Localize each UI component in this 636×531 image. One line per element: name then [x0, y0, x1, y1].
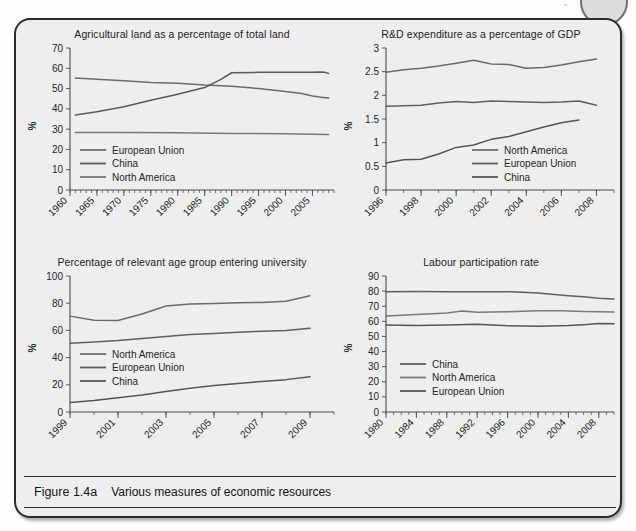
svg-text:2000: 2000 [261, 194, 285, 218]
svg-text:0: 0 [57, 185, 63, 196]
svg-text:%: % [343, 121, 354, 130]
svg-text:1980: 1980 [154, 194, 178, 218]
svg-text:80: 80 [368, 286, 380, 297]
svg-text:1996: 1996 [484, 416, 508, 440]
svg-text:1: 1 [373, 137, 379, 148]
svg-text:1975: 1975 [127, 194, 151, 218]
svg-text:40: 40 [368, 346, 380, 357]
svg-text:40: 40 [52, 103, 64, 114]
svg-text:50: 50 [368, 331, 380, 342]
svg-text:1965: 1965 [73, 194, 97, 218]
svg-text:2001: 2001 [94, 416, 118, 440]
chart-agricultural-land: Agricultural land as a percentage of tot… [22, 26, 342, 254]
svg-text:20: 20 [52, 379, 64, 390]
svg-text:%: % [343, 343, 354, 352]
svg-text:European Union: European Union [112, 362, 184, 373]
charts-grid: Agricultural land as a percentage of tot… [16, 20, 620, 472]
chart-title-university-entry: Percentage of relevant age group enterin… [22, 254, 342, 268]
svg-text:2004: 2004 [544, 416, 568, 440]
svg-text:20: 20 [368, 376, 380, 387]
svg-text:1985: 1985 [181, 194, 205, 218]
svg-text:2006: 2006 [537, 194, 561, 218]
chart-plot-labour-participation: 0102030405060708090%19801984198819921996… [342, 268, 620, 468]
svg-text:2000: 2000 [514, 416, 538, 440]
chart-rd-expenditure: R&D expenditure as a percentage of GDP 0… [342, 26, 620, 254]
svg-text:1970: 1970 [100, 194, 124, 218]
chart-university-entry: Percentage of relevant age group enterin… [22, 254, 342, 472]
svg-text:1996: 1996 [362, 194, 386, 218]
figure-number-label: Figure 1.4a [34, 485, 97, 499]
svg-text:1999: 1999 [46, 416, 70, 440]
svg-text:1960: 1960 [46, 194, 70, 218]
svg-text:1980: 1980 [362, 416, 386, 440]
svg-text:60: 60 [52, 63, 64, 74]
svg-text:90: 90 [368, 271, 380, 282]
chart-canvas-agricultural-land: 010203040506070%196019651970197519801985… [22, 40, 342, 248]
svg-text:1992: 1992 [453, 416, 477, 440]
svg-text:60: 60 [368, 316, 380, 327]
svg-text:2008: 2008 [575, 416, 599, 440]
svg-text:2005: 2005 [190, 416, 214, 440]
svg-text:0: 0 [57, 407, 63, 418]
figure-page: '' Agricultural land as a percentage of … [0, 0, 636, 531]
chart-canvas-university-entry: 020406080100%199920012003200520072009Nor… [22, 268, 342, 468]
svg-text:2004: 2004 [502, 194, 526, 218]
svg-text:1995: 1995 [234, 194, 258, 218]
svg-text:80: 80 [52, 298, 64, 309]
svg-text:North America: North America [112, 349, 176, 360]
chart-title-rd-expenditure: R&D expenditure as a percentage of GDP [342, 26, 620, 40]
svg-text:2003: 2003 [142, 416, 166, 440]
svg-text:2.5: 2.5 [365, 66, 379, 77]
svg-text:2008: 2008 [572, 194, 596, 218]
svg-text:%: % [27, 121, 38, 130]
svg-text:2: 2 [373, 90, 379, 101]
svg-text:10: 10 [368, 391, 380, 402]
svg-text:70: 70 [368, 301, 380, 312]
chart-title-labour-participation: Labour participation rate [342, 254, 620, 268]
svg-text:0: 0 [373, 407, 379, 418]
chart-plot-rd-expenditure: 00.511.522.53%19961998200020022004200620… [342, 40, 620, 248]
chart-plot-agricultural-land: 010203040506070%196019651970197519801985… [22, 40, 342, 248]
svg-text:2000: 2000 [432, 194, 456, 218]
svg-text:100: 100 [46, 271, 63, 282]
svg-text:European Union: European Union [432, 386, 504, 397]
svg-text:China: China [112, 158, 139, 169]
svg-text:2005: 2005 [288, 194, 312, 218]
svg-text:North America: North America [432, 372, 496, 383]
svg-text:1990: 1990 [208, 194, 232, 218]
svg-text:2002: 2002 [467, 194, 491, 218]
svg-text:North America: North America [112, 172, 176, 183]
page-corner-mark: '' [564, 2, 574, 12]
svg-text:European Union: European Union [504, 158, 576, 169]
svg-text:30: 30 [52, 124, 64, 135]
svg-text:1984: 1984 [392, 416, 416, 440]
figure-caption-bar: Figure 1.4a Various measures of economic… [24, 476, 616, 508]
svg-text:China: China [432, 359, 459, 370]
chart-labour-participation: Labour participation rate 01020304050607… [342, 254, 620, 472]
svg-text:30: 30 [368, 361, 380, 372]
svg-text:70: 70 [52, 43, 64, 54]
svg-text:0.5: 0.5 [365, 161, 379, 172]
chart-canvas-rd-expenditure: 00.511.522.53%19961998200020022004200620… [342, 40, 620, 248]
svg-text:1988: 1988 [423, 416, 447, 440]
svg-text:20: 20 [52, 144, 64, 155]
svg-text:North America: North America [504, 145, 568, 156]
svg-text:2007: 2007 [238, 416, 262, 440]
svg-text:%: % [27, 343, 38, 352]
chart-plot-university-entry: 020406080100%199920012003200520072009Nor… [22, 268, 342, 468]
svg-text:China: China [112, 376, 139, 387]
svg-text:European Union: European Union [112, 145, 184, 156]
svg-text:50: 50 [52, 83, 64, 94]
figure-panel: Agricultural land as a percentage of tot… [14, 18, 622, 518]
svg-text:60: 60 [52, 325, 64, 336]
svg-text:10: 10 [52, 164, 64, 175]
svg-text:1.5: 1.5 [365, 114, 379, 125]
svg-text:1998: 1998 [397, 194, 421, 218]
svg-text:2009: 2009 [286, 416, 310, 440]
chart-title-agricultural-land: Agricultural land as a percentage of tot… [22, 26, 342, 40]
figure-caption-text: Various measures of economic resources [111, 485, 331, 499]
svg-text:0: 0 [373, 185, 379, 196]
chart-canvas-labour-participation: 0102030405060708090%19801984198819921996… [342, 268, 620, 468]
svg-text:3: 3 [373, 43, 379, 54]
svg-text:China: China [504, 172, 531, 183]
